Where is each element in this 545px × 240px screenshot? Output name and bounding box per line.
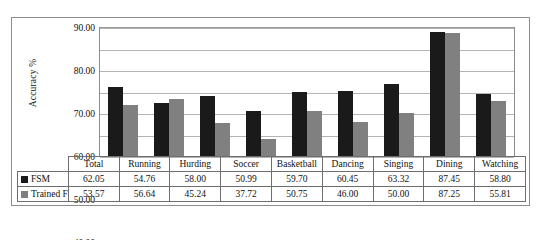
data-cell: 54.76 bbox=[119, 172, 170, 187]
data-cell: 55.81 bbox=[475, 187, 526, 202]
bars-layer bbox=[100, 28, 514, 156]
bar bbox=[123, 105, 138, 156]
legend-swatch-icon bbox=[21, 191, 28, 198]
table-header-row: TotalRunningHurdingSoccerBasketballDanci… bbox=[18, 157, 526, 172]
bar bbox=[430, 32, 445, 156]
y-axis-tick-label: 70.00 bbox=[74, 109, 95, 119]
bar bbox=[261, 139, 276, 156]
data-cell: 50.75 bbox=[271, 187, 322, 202]
bar bbox=[491, 101, 506, 156]
category-header-cell: Basketball bbox=[271, 157, 322, 172]
data-table: TotalRunningHurdingSoccerBasketballDanci… bbox=[17, 156, 526, 202]
table-row: FSM62.0554.7658.0050.9959.7060.4563.3287… bbox=[18, 172, 526, 187]
category-header-cell: Total bbox=[68, 157, 119, 172]
bar bbox=[307, 111, 322, 156]
category-header-cell: Hurding bbox=[170, 157, 221, 172]
table-row: Trained FRBM53.5756.6445.2437.7250.7546.… bbox=[18, 187, 526, 202]
data-cell: 60.45 bbox=[322, 172, 373, 187]
bar-group bbox=[330, 28, 376, 156]
plot-area: 90.0080.0070.0060.0050.0040.0030.00 bbox=[99, 27, 515, 156]
bar-group bbox=[376, 28, 422, 156]
data-cell: 59.70 bbox=[271, 172, 322, 187]
category-header-cell: Watching bbox=[475, 157, 526, 172]
data-cell: 50.00 bbox=[373, 187, 424, 202]
data-cell: 56.64 bbox=[119, 187, 170, 202]
bar bbox=[200, 96, 215, 156]
bar bbox=[246, 111, 261, 156]
data-cell: 50.99 bbox=[221, 172, 272, 187]
category-header-cell: Singing bbox=[373, 157, 424, 172]
bar-group bbox=[238, 28, 284, 156]
data-cell: 45.24 bbox=[170, 187, 221, 202]
category-header-cell: Dining bbox=[424, 157, 475, 172]
y-axis-tick-label: 90.00 bbox=[74, 23, 95, 33]
chart-figure: Accuracy % 90.0080.0070.0060.0050.0040.0… bbox=[11, 17, 530, 206]
data-cell: 62.05 bbox=[68, 172, 119, 187]
y-axis-title: Accuracy % bbox=[28, 38, 38, 128]
bar bbox=[445, 33, 460, 156]
bar-group bbox=[100, 28, 146, 156]
data-cell: 63.32 bbox=[373, 172, 424, 187]
bar bbox=[384, 84, 399, 156]
table-corner-cell bbox=[18, 157, 69, 172]
bar-group bbox=[468, 28, 514, 156]
data-cell: 58.80 bbox=[475, 172, 526, 187]
bar-group bbox=[422, 28, 468, 156]
legend-label: FSM bbox=[31, 174, 50, 184]
bar bbox=[292, 92, 307, 156]
data-cell: 87.45 bbox=[424, 172, 475, 187]
bar bbox=[169, 99, 184, 156]
category-header-cell: Soccer bbox=[221, 157, 272, 172]
y-axis-tick-label: 80.00 bbox=[74, 66, 95, 76]
bar-group bbox=[146, 28, 192, 156]
bar bbox=[108, 87, 123, 156]
category-header-cell: Dancing bbox=[322, 157, 373, 172]
data-cell: 87.25 bbox=[424, 187, 475, 202]
data-cell: 58.00 bbox=[170, 172, 221, 187]
bar bbox=[476, 94, 491, 156]
bar bbox=[399, 113, 414, 156]
legend-entry: Trained FRBM bbox=[18, 187, 69, 202]
category-header-cell: Running bbox=[119, 157, 170, 172]
bar bbox=[353, 122, 368, 156]
legend-entry: FSM bbox=[18, 172, 69, 187]
legend-swatch-icon bbox=[21, 176, 28, 183]
bar-group bbox=[192, 28, 238, 156]
data-cell: 46.00 bbox=[322, 187, 373, 202]
bar bbox=[338, 91, 353, 156]
bar bbox=[215, 123, 230, 156]
data-cell: 53.57 bbox=[68, 187, 119, 202]
data-cell: 37.72 bbox=[221, 187, 272, 202]
bar-group bbox=[284, 28, 330, 156]
bar bbox=[154, 103, 169, 156]
legend-label: Trained FRBM bbox=[31, 189, 68, 199]
